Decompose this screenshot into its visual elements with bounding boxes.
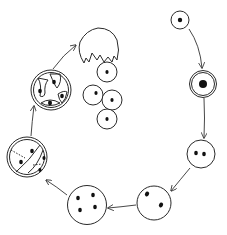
arrow-1-to-2 (189, 29, 202, 68)
stage-8-ruptured-shell (79, 28, 118, 63)
stage-8-released-cells (83, 62, 122, 129)
stage-5-cell (68, 186, 107, 225)
arrow-2-to-3 (204, 98, 205, 138)
arrow-7-to-8 (53, 45, 76, 69)
cell-cycle-diagram (0, 0, 227, 235)
stage-7-cell (31, 70, 71, 110)
arrow-4-to-5 (108, 205, 136, 208)
arrow-6-to-7 (31, 106, 34, 136)
stage-4-cell (137, 186, 171, 220)
arrow-5-to-6 (46, 180, 67, 195)
stage-3-cell (187, 140, 215, 168)
stage-1-cell (171, 11, 189, 29)
arrow-3-to-4 (171, 168, 190, 191)
stage-2-cell (190, 71, 217, 98)
stage-6-cell (7, 137, 47, 177)
